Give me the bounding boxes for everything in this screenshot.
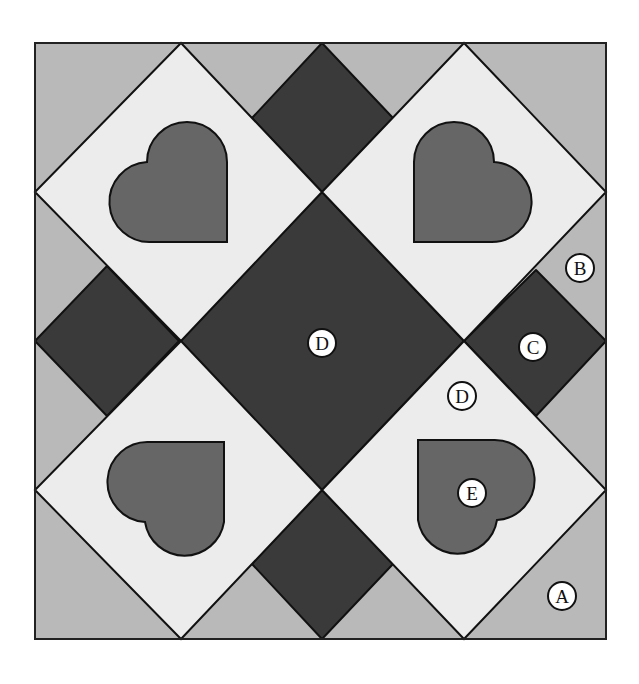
label-B: B (566, 254, 594, 282)
svg-text:A: A (555, 586, 569, 607)
svg-text:E: E (466, 483, 478, 504)
label-C: C (519, 333, 547, 361)
svg-text:B: B (574, 258, 587, 279)
svg-text:D: D (315, 333, 329, 354)
label-D-center: D (308, 329, 336, 357)
label-D-light: D (448, 382, 476, 410)
label-E: E (458, 479, 486, 507)
label-A: A (548, 582, 576, 610)
svg-text:C: C (527, 337, 540, 358)
quilt-diagram: A B C D D E (0, 0, 639, 684)
svg-text:D: D (455, 386, 469, 407)
